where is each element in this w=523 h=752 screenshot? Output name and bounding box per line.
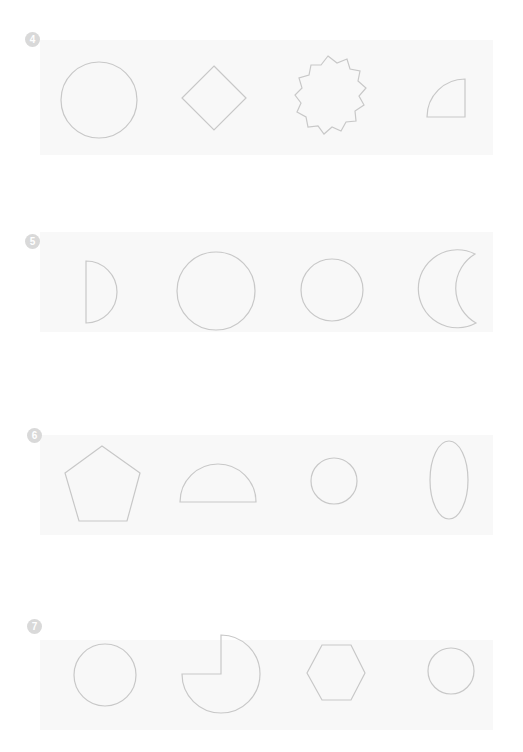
exercise-row-7: 7	[0, 0, 523, 752]
circle-shape[interactable]	[0, 0, 523, 752]
